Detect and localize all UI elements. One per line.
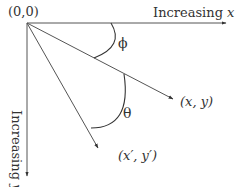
theta-angle-arc	[91, 74, 125, 128]
x-axis-label: Increasing x	[153, 5, 235, 20]
coordinate-rotation-diagram: (0,0) Increasing x Increasing y ϕ θ (x, …	[0, 0, 235, 187]
point-xy-label: (x, y)	[180, 94, 213, 109]
phi-label: ϕ	[118, 35, 128, 51]
x-axis-label-var: x	[227, 5, 235, 20]
x-axis-label-prefix: Increasing	[153, 5, 227, 20]
theta-label: θ	[123, 105, 131, 121]
origin-label: (0,0)	[8, 4, 39, 19]
phi-angle-arc	[94, 23, 115, 58]
y-axis-label-prefix: Increasing	[9, 110, 24, 184]
y-axis-label: Increasing y	[9, 110, 24, 187]
y-axis-label-var: y	[9, 183, 24, 187]
point-xy-prime-label: (x′, y′)	[118, 148, 157, 163]
